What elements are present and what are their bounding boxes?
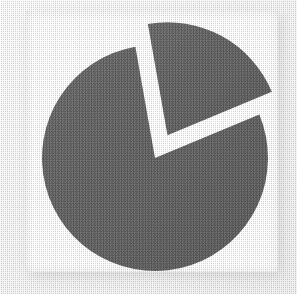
screenshot-canvas: Grayscale pie chart with one wedge pulle… [0, 0, 297, 294]
pie-chart [0, 0, 297, 294]
